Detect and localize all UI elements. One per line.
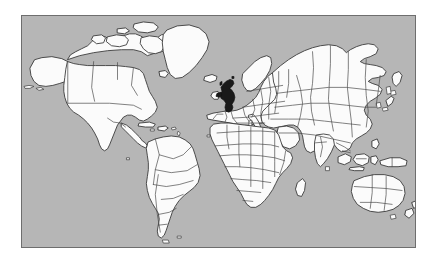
landmass-galapagos: [126, 158, 129, 160]
landmass-jamaica: [150, 129, 154, 131]
map-page: [0, 0, 435, 264]
caption-area: [0, 249, 435, 264]
landmass-ellesmere-island: [133, 22, 158, 33]
landmass-sakhalin: [386, 86, 391, 94]
highlight-shetland: [232, 76, 234, 78]
landmass-java: [349, 167, 364, 171]
landmass-sri-lanka: [325, 167, 329, 171]
landmass-tierra-del-fuego: [162, 240, 169, 243]
world-map-figure: [21, 15, 416, 248]
landmass-new-guinea: [380, 158, 407, 167]
world-map-svg: [22, 16, 415, 247]
landmass-korea: [376, 102, 381, 108]
landmass-victoria-island: [107, 35, 129, 47]
landmass-tasmania: [390, 214, 396, 219]
highlight-hebrides: [220, 81, 222, 85]
landmass-cuba: [138, 122, 155, 127]
landmass-japan-south: [382, 107, 388, 111]
landmass-canary-islands: [207, 135, 210, 137]
landmass-falkland-islands: [177, 236, 181, 238]
